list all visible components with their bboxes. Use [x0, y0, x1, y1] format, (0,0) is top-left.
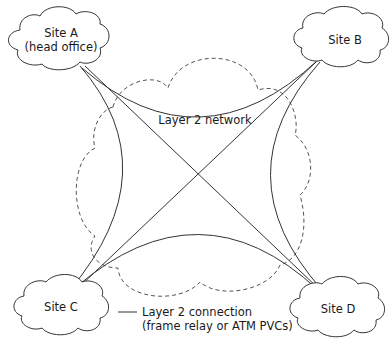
connection-b-c [76, 62, 316, 290]
connection-a-c [70, 66, 123, 290]
site-c-label: Site C [26, 300, 96, 314]
connection-a-b [82, 60, 318, 117]
legend-line2: (frame relay or ATM PVCs) [142, 319, 293, 333]
legend-line1: Layer 2 connection [142, 305, 293, 319]
site-b-label: Site B [310, 33, 380, 47]
connection-b-d [270, 62, 322, 290]
site-d-label: Site D [303, 302, 373, 316]
site-a-label: Site A (head office) [22, 26, 100, 54]
site-a-subtitle: (head office) [22, 40, 100, 54]
site-a-name: Site A [22, 26, 100, 40]
connection-c-d [75, 234, 318, 290]
connections [70, 60, 322, 290]
legend-label: Layer 2 connection (frame relay or ATM P… [142, 305, 293, 333]
network-label: Layer 2 network [150, 113, 260, 127]
